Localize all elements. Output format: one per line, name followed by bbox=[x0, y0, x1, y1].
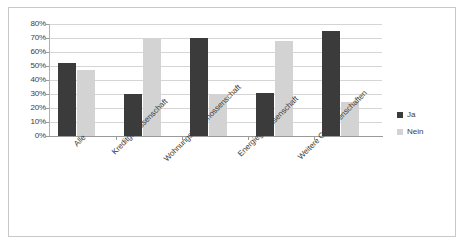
y-tick-label: 70% bbox=[12, 34, 46, 42]
legend-swatch-icon bbox=[397, 112, 403, 118]
legend-label: Ja bbox=[407, 111, 415, 119]
y-axis: 80% 70% 60% 50% 40% 30% 20% 10% 0% bbox=[9, 24, 46, 137]
legend-label: Nein bbox=[407, 128, 423, 136]
bar-group bbox=[182, 24, 248, 136]
x-axis-line bbox=[49, 136, 383, 137]
y-tick-label: 0% bbox=[12, 132, 46, 140]
bar-ja bbox=[58, 63, 76, 136]
bar-group bbox=[50, 24, 116, 136]
legend-swatch-icon bbox=[397, 129, 403, 135]
y-tick-label: 80% bbox=[12, 20, 46, 28]
y-tick-label: 40% bbox=[12, 76, 46, 84]
chart-container: 80% 70% 60% 50% 40% 30% 20% 10% 0% bbox=[8, 7, 456, 237]
chart-legend: Ja Nein bbox=[397, 106, 453, 140]
x-axis-labels: Alle Kreditgenossenschaft Wohnungsbaugen… bbox=[50, 138, 390, 233]
y-tick-label: 10% bbox=[12, 118, 46, 126]
y-tick-label: 20% bbox=[12, 104, 46, 112]
y-tick-label: 50% bbox=[12, 62, 46, 70]
legend-item-ja: Ja bbox=[397, 106, 453, 123]
y-tick-label: 30% bbox=[12, 90, 46, 98]
bar-group bbox=[314, 24, 380, 136]
bar-nein bbox=[77, 70, 95, 136]
y-tick-label: 60% bbox=[12, 48, 46, 56]
legend-item-nein: Nein bbox=[397, 123, 453, 140]
